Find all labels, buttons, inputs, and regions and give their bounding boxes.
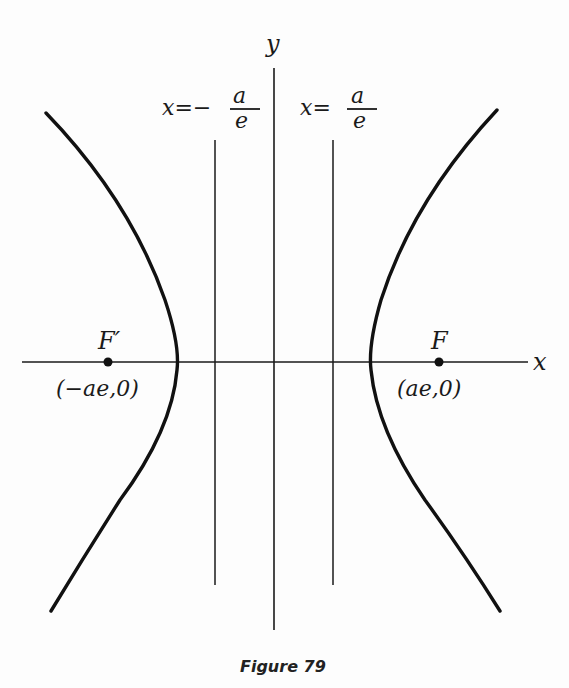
focus-left-label: F′ — [97, 327, 121, 355]
focus-left-coords: (−ae,0) — [56, 376, 139, 401]
right-directrix-eq: x= — [300, 95, 331, 120]
y-axis-label: y — [265, 30, 280, 58]
focus-right-coords: (ae,0) — [397, 376, 461, 401]
focus-left-point — [104, 358, 113, 367]
hyperbola-diagram: y x x=− a e x= a e F′ (−ae,0) F (ae,0) F… — [0, 0, 569, 688]
figure-caption: Figure 79 — [240, 657, 326, 676]
right-directrix-denominator: e — [353, 108, 366, 133]
left-directrix-numerator: a — [233, 83, 246, 108]
right-directrix-numerator: a — [351, 83, 364, 108]
focus-right-point — [435, 358, 444, 367]
x-axis-label: x — [533, 348, 547, 376]
left-directrix-eq: x=− — [162, 95, 211, 120]
focus-right-label: F — [430, 327, 449, 355]
left-directrix-denominator: e — [235, 108, 248, 133]
